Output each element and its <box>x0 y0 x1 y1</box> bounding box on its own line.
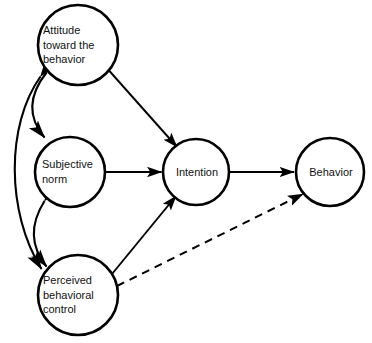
edge-attitude-to-intention <box>109 71 177 148</box>
edge-pbc-to-intention <box>112 196 176 274</box>
edge-pbc-to-behavior <box>117 194 303 286</box>
diagram-canvas <box>0 0 372 343</box>
node-subjective-norm[interactable] <box>35 137 105 207</box>
node-perceived-behavioral-control[interactable] <box>38 255 118 335</box>
node-behavior[interactable] <box>296 138 364 206</box>
edge-attitude-subjective-norm-correlation <box>32 73 46 138</box>
node-intention[interactable] <box>163 139 229 205</box>
node-attitude[interactable] <box>38 5 118 85</box>
tpb-diagram: Attitude toward the behavior Subjective … <box>0 0 372 343</box>
